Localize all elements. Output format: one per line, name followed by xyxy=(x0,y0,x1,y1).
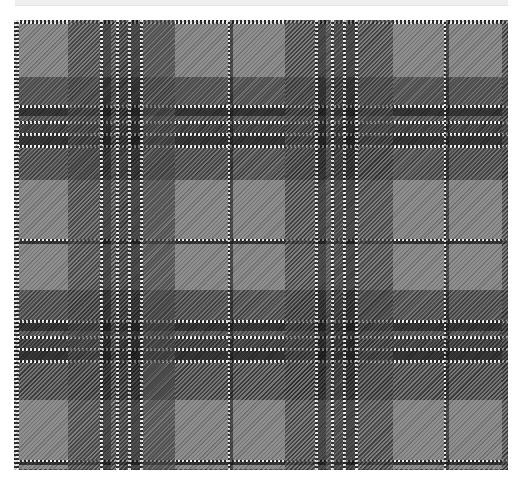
warp-stripe xyxy=(228,20,230,470)
warp-stripe xyxy=(318,20,326,470)
weft-stripe xyxy=(14,363,508,400)
warp-twill xyxy=(119,20,128,470)
warp-stripe xyxy=(502,20,508,470)
warp-stripe xyxy=(326,20,331,470)
warp-stripe xyxy=(143,20,175,470)
weft-stripe xyxy=(14,121,508,124)
warp-stripe xyxy=(131,20,140,470)
weft-stripe xyxy=(14,460,508,462)
weft-stripe xyxy=(14,239,508,241)
weft-twill xyxy=(14,124,508,133)
warp-stripe xyxy=(128,20,131,470)
warp-stripe xyxy=(103,20,111,470)
weft-stripe xyxy=(14,77,508,105)
weft-stripe xyxy=(14,348,508,351)
weft-twill xyxy=(14,77,508,105)
twill-texture xyxy=(14,20,508,470)
weft-stripe xyxy=(14,124,508,133)
warp-stripe xyxy=(140,20,143,470)
weft-stripe xyxy=(14,323,508,331)
weft-stripe xyxy=(14,351,508,360)
warp-stripe xyxy=(68,20,100,470)
warp-stripe xyxy=(446,20,449,470)
warp-stripe xyxy=(355,20,358,470)
weft-stripe xyxy=(14,331,508,336)
weft-twill xyxy=(14,331,508,336)
weft-stripe xyxy=(14,148,508,180)
warp-stripe xyxy=(119,20,128,470)
warp-stripe xyxy=(230,20,233,470)
warp-twill xyxy=(68,20,100,470)
weft-stripe xyxy=(14,320,508,323)
warp-twill xyxy=(111,20,116,470)
warp-stripe xyxy=(343,20,346,470)
weft-stripe xyxy=(14,336,508,339)
weft-stripe xyxy=(14,339,508,348)
warp-stripe xyxy=(346,20,355,470)
weft-stripe xyxy=(14,462,508,465)
warp-stripe xyxy=(285,20,315,470)
warp-twill xyxy=(358,20,393,470)
tartan-fabric xyxy=(14,20,508,470)
warp-twill xyxy=(502,20,508,470)
warp-stripe xyxy=(444,20,446,470)
warp-twill xyxy=(143,20,175,470)
warp-stripe xyxy=(111,20,116,470)
top-strip xyxy=(15,0,508,6)
warp-twill xyxy=(334,20,343,470)
warp-twill xyxy=(326,20,331,470)
weft-stripe xyxy=(14,20,508,24)
weft-stripe xyxy=(14,133,508,136)
weft-twill xyxy=(14,363,508,400)
weft-twill xyxy=(14,290,508,320)
warp-stripe xyxy=(331,20,334,470)
weft-stripe xyxy=(14,360,508,363)
weft-twill xyxy=(14,339,508,348)
warp-stripe xyxy=(14,20,19,470)
warp-stripe xyxy=(116,20,119,470)
weft-stripe xyxy=(14,108,508,116)
weft-stripe xyxy=(14,290,508,320)
warp-twill xyxy=(285,20,315,470)
warp-stripe xyxy=(315,20,318,470)
warp-stripe xyxy=(100,20,103,470)
warp-stripe xyxy=(358,20,393,470)
weft-stripe xyxy=(14,145,508,148)
weft-twill xyxy=(14,148,508,180)
weft-stripe xyxy=(14,241,508,244)
weft-twill xyxy=(14,116,508,121)
warp-stripe xyxy=(334,20,343,470)
weft-stripe xyxy=(14,136,508,145)
weft-stripe xyxy=(14,105,508,108)
weft-stripe xyxy=(14,116,508,121)
